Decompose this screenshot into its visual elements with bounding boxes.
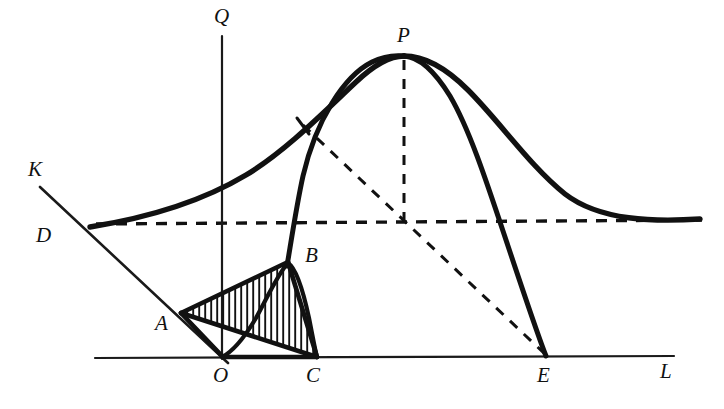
axes-group [40,36,674,363]
label-a: A [153,311,168,335]
horizontal-asymptote-dashed [96,220,702,224]
label-k: K [27,157,43,181]
point-labels-group: Q K D A B O C P E L [27,4,672,387]
l-axis-line [95,356,674,358]
label-l: L [659,359,672,383]
p-to-e-diagonal-dashed [303,125,546,355]
label-p: P [396,23,410,47]
label-o: O [213,363,228,387]
label-q: Q [214,4,229,28]
diagram-canvas: Q K D A B O C P E L [0,0,724,409]
label-e: E [536,363,550,387]
wide-bell-curve [90,56,700,227]
label-b: B [305,243,318,267]
figure-root: Q K D A B O C P E L [0,0,724,409]
narrow-bell-curve [287,56,546,356]
label-d: D [35,223,51,247]
k-axis-line [40,187,228,363]
label-c: C [306,363,321,387]
